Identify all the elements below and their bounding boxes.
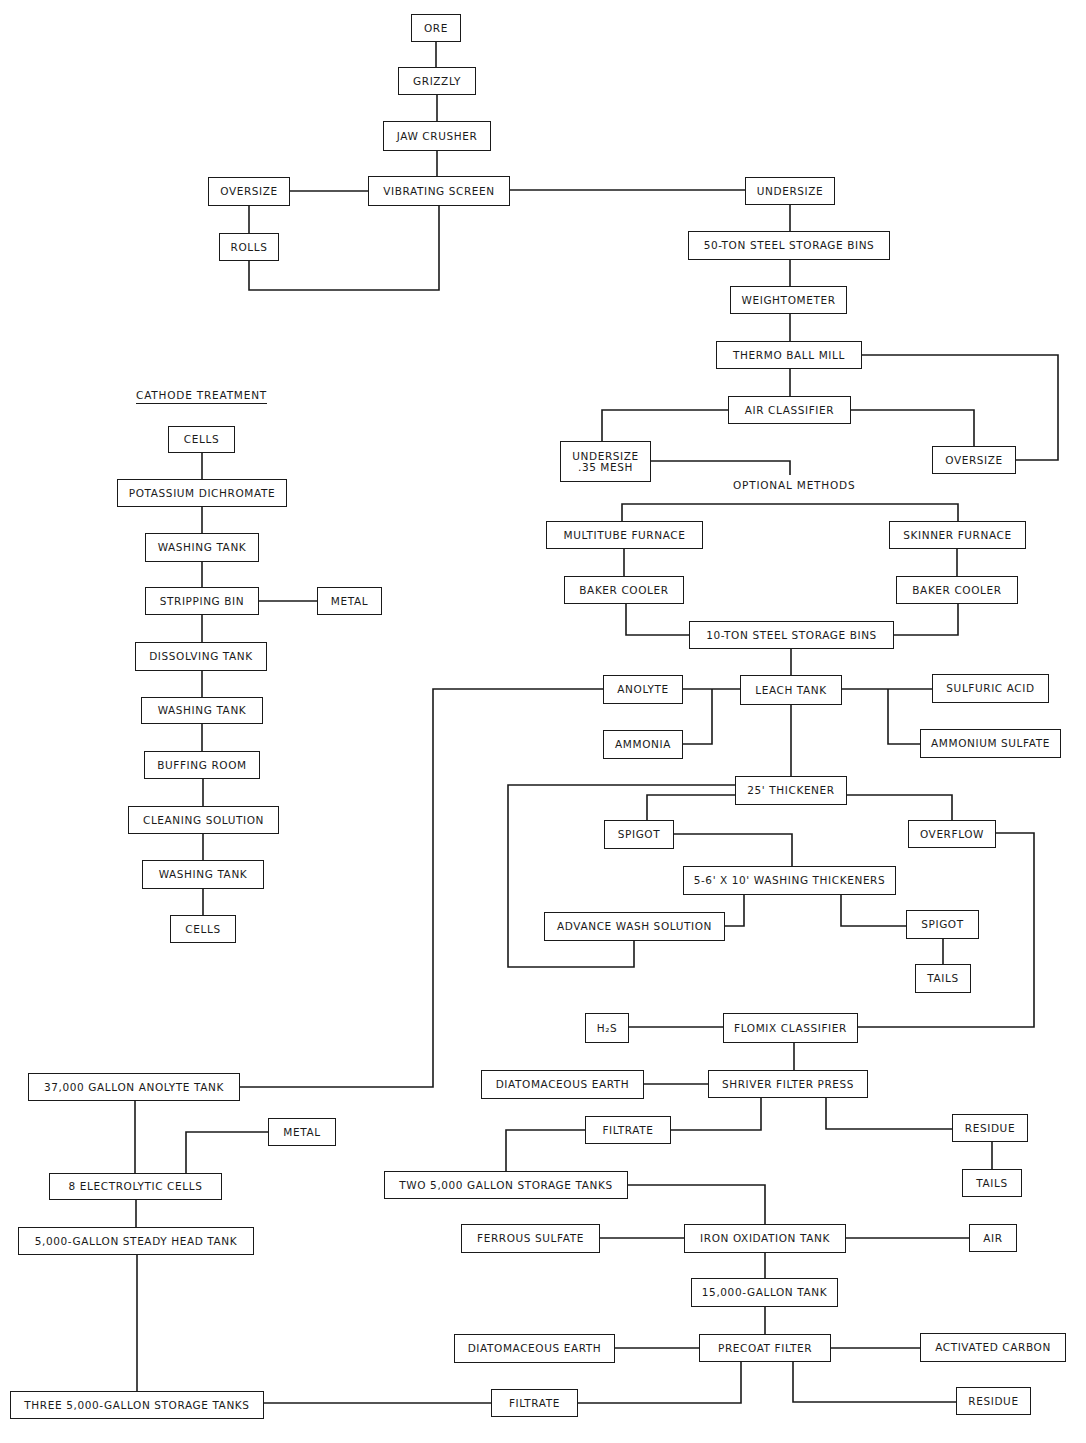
- process-node-leach-tank: LEACH TANK: [740, 675, 842, 705]
- process-node-anolyte-tank: 37,000 GALLON ANOLYTE TANK: [28, 1073, 240, 1101]
- process-node-stripping-bin: STRIPPING BIN: [145, 587, 259, 615]
- process-node-filtrate-1: FILTRATE: [585, 1116, 671, 1144]
- process-node-three-5000-tanks: THREE 5,000-GALLON STORAGE TANKS: [10, 1391, 264, 1419]
- process-node-electrolytic-cells: 8 ELECTROLYTIC CELLS: [49, 1173, 222, 1200]
- process-node-sulfuric-acid: SULFURIC ACID: [932, 674, 1049, 703]
- process-node-grizzly: GRIZZLY: [398, 67, 476, 95]
- process-node-thermo-ball-mill: THERMO BALL MILL: [716, 341, 862, 369]
- process-node-cells-1: CELLS: [168, 426, 235, 453]
- process-node-bins-50: 50-TON STEEL STORAGE BINS: [688, 231, 890, 260]
- process-node-baker-cooler-1: BAKER COOLER: [564, 576, 684, 604]
- process-node-jaw-crusher: JAW CRUSHER: [383, 121, 491, 151]
- process-node-overflow: OVERFLOW: [908, 820, 996, 848]
- process-node-diatomaceous-earth-2: DIATOMACEOUS EARTH: [454, 1334, 615, 1363]
- process-node-washing-tank-2: WASHING TANK: [141, 697, 263, 724]
- cathode-treatment-heading: CATHODE TREATMENT: [136, 389, 267, 404]
- flowsheet-canvas: CATHODE TREATMENT OPTIONAL METHODS OREGR…: [0, 0, 1086, 1443]
- process-node-ore: ORE: [411, 14, 461, 42]
- process-node-washing-tank-1: WASHING TANK: [145, 533, 259, 562]
- process-node-metal-2: METAL: [268, 1118, 336, 1146]
- process-node-baker-cooler-2: BAKER COOLER: [896, 576, 1018, 604]
- process-node-tails-2: TAILS: [962, 1169, 1022, 1197]
- process-node-washing-thickeners: 5-6' X 10' WASHING THICKENERS: [683, 866, 896, 895]
- process-node-h2s: H₂S: [585, 1013, 629, 1043]
- process-node-dissolving-tank: DISSOLVING TANK: [135, 642, 267, 671]
- process-node-cleaning-solution: CLEANING SOLUTION: [128, 806, 279, 834]
- process-node-tank-15000: 15,000-GALLON TANK: [691, 1278, 838, 1307]
- process-node-thickener-25: 25' THICKENER: [735, 776, 847, 805]
- process-node-shriver-filter-press: SHRIVER FILTER PRESS: [708, 1070, 868, 1098]
- process-node-anolyte: ANOLYTE: [603, 675, 683, 704]
- process-node-advance-wash: ADVANCE WASH SOLUTION: [544, 912, 725, 941]
- process-node-bins-10: 10-TON STEEL STORAGE BINS: [689, 621, 894, 649]
- optional-methods-label: OPTIONAL METHODS: [733, 479, 855, 491]
- process-node-undersize-1: UNDERSIZE: [745, 177, 835, 205]
- process-node-filtrate-2: FILTRATE: [491, 1389, 578, 1417]
- process-node-ammonia: AMMONIA: [603, 730, 683, 759]
- process-node-spigot-2: SPIGOT: [906, 910, 979, 939]
- process-node-iron-oxidation-tank: IRON OXIDATION TANK: [684, 1224, 846, 1253]
- process-node-residue-2: RESIDUE: [956, 1387, 1031, 1415]
- process-node-washing-tank-3: WASHING TANK: [142, 860, 264, 889]
- process-node-ammonium-sulfate: AMMONIUM SULFATE: [920, 729, 1061, 758]
- process-node-oversize-1: OVERSIZE: [208, 177, 290, 206]
- process-node-skinner-furnace: SKINNER FURNACE: [889, 521, 1026, 549]
- process-node-two-5000-tanks: TWO 5,000 GALLON STORAGE TANKS: [384, 1171, 628, 1199]
- process-node-steady-head-tank: 5,000-GALLON STEADY HEAD TANK: [18, 1227, 254, 1255]
- process-node-activated-carbon: ACTIVATED CARBON: [920, 1333, 1066, 1362]
- process-node-metal-1: METAL: [317, 587, 382, 615]
- process-node-flomix-classifier: FLOMIX CLASSIFIER: [723, 1013, 858, 1043]
- process-node-cells-2: CELLS: [170, 915, 236, 943]
- process-node-diatomaceous-earth-1: DIATOMACEOUS EARTH: [481, 1070, 644, 1099]
- process-node-vibrating-screen: VIBRATING SCREEN: [368, 176, 510, 206]
- process-node-spigot-1: SPIGOT: [604, 820, 674, 849]
- process-node-multitube-furnace: MULTITUBE FURNACE: [546, 521, 703, 549]
- process-node-undersize-35: UNDERSIZE .35 MESH: [560, 441, 651, 482]
- process-node-weightometer: WEIGHTOMETER: [730, 286, 847, 314]
- process-node-buffing-room: BUFFING ROOM: [144, 751, 260, 779]
- process-node-oversize-2: OVERSIZE: [932, 446, 1016, 474]
- process-node-air: AIR: [969, 1224, 1017, 1252]
- process-node-rolls: ROLLS: [219, 233, 279, 261]
- process-node-ferrous-sulfate: FERROUS SULFATE: [461, 1224, 600, 1253]
- process-node-tails-1: TAILS: [915, 964, 971, 993]
- process-node-residue-1: RESIDUE: [952, 1114, 1028, 1142]
- process-node-potassium-dichromate: POTASSIUM DICHROMATE: [117, 479, 287, 507]
- process-node-air-classifier: AIR CLASSIFIER: [728, 396, 851, 424]
- process-node-precoat-filter: PRECOAT FILTER: [699, 1334, 831, 1362]
